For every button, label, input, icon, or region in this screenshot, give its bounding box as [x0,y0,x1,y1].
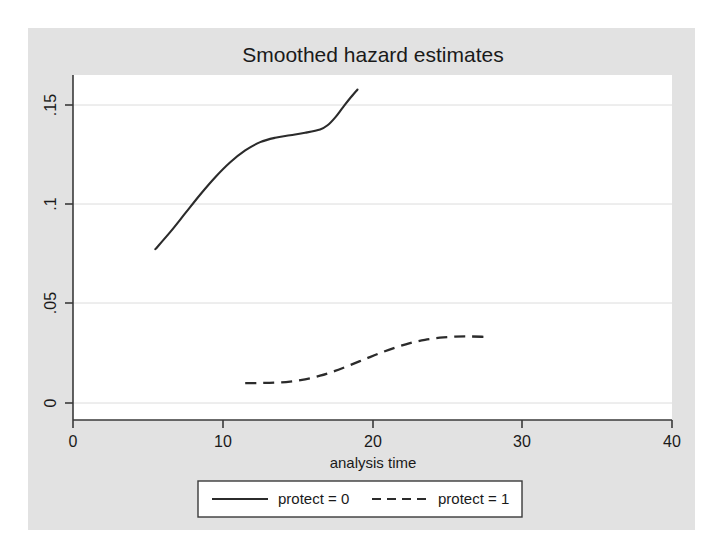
x-tick-label-1: 10 [214,433,232,450]
y-tick-label-2: .1 [42,197,59,210]
y-axis-ticks [65,105,73,403]
x-axis-ticks [73,420,672,428]
y-tick-label-0: 0 [42,398,59,407]
x-tick-label-3: 30 [513,433,531,450]
screenshot-root: Smoothed hazard estimates .15 .1 .05 0 0… [0,0,720,555]
legend-label-1: protect = 1 [438,490,509,507]
y-tick-label-1: .05 [42,292,59,314]
x-tick-label-2: 20 [364,433,382,450]
plot-area-background [73,75,672,420]
x-tick-label-4: 40 [663,433,681,450]
hazard-chart: Smoothed hazard estimates .15 .1 .05 0 0… [0,0,720,555]
chart-title: Smoothed hazard estimates [242,43,503,66]
x-axis-title: analysis time [330,454,417,471]
y-tick-label-3: .15 [42,94,59,116]
x-tick-label-0: 0 [69,433,78,450]
legend-label-0: protect = 0 [278,490,349,507]
